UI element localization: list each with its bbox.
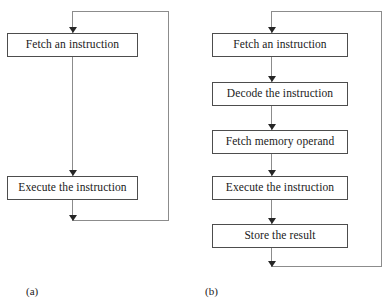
flowchart-panel-a: Fetch an instruction Execute the instruc… [0,0,196,307]
process-box-execute-instruction-a[interactable]: Execute the instruction [7,176,138,200]
panel-caption-b: (b) [205,286,218,297]
process-box-fetch-instruction-b[interactable]: Fetch an instruction [212,33,348,57]
arrowhead-loop-return-a [69,215,77,221]
panel-caption-a: (a) [26,286,38,297]
loop-top-rail-a [72,11,169,12]
loop-right-rail-b [381,11,382,267]
process-box-label: Fetch memory operand [226,136,335,148]
process-box-label: Decode the instruction [227,88,333,100]
loop-top-rail-b [271,11,382,12]
instruction-cycle-figure: Fetch an instruction Execute the instruc… [0,0,392,307]
process-box-label: Fetch an instruction [233,39,326,51]
process-box-label: Execute the instruction [226,182,334,194]
loop-bottom-rail-a [72,220,169,221]
process-box-label: Store the result [244,230,315,242]
arrowhead-loop-return-b [268,261,276,267]
connector-fetch-to-execute-a [72,57,73,176]
loop-right-rail-a [168,11,169,221]
process-box-fetch-memory-operand-b[interactable]: Fetch memory operand [212,130,348,154]
process-box-fetch-instruction-a[interactable]: Fetch an instruction [7,33,138,57]
process-box-label: Execute the instruction [18,182,126,194]
process-box-label: Fetch an instruction [26,39,119,51]
process-box-decode-instruction-b[interactable]: Decode the instruction [212,82,348,106]
process-box-store-result-b[interactable]: Store the result [212,224,348,248]
loop-bottom-rail-b [271,266,382,267]
flowchart-panel-b: Fetch an instruction Decode the instruct… [196,0,392,307]
process-box-execute-instruction-b[interactable]: Execute the instruction [212,176,348,200]
